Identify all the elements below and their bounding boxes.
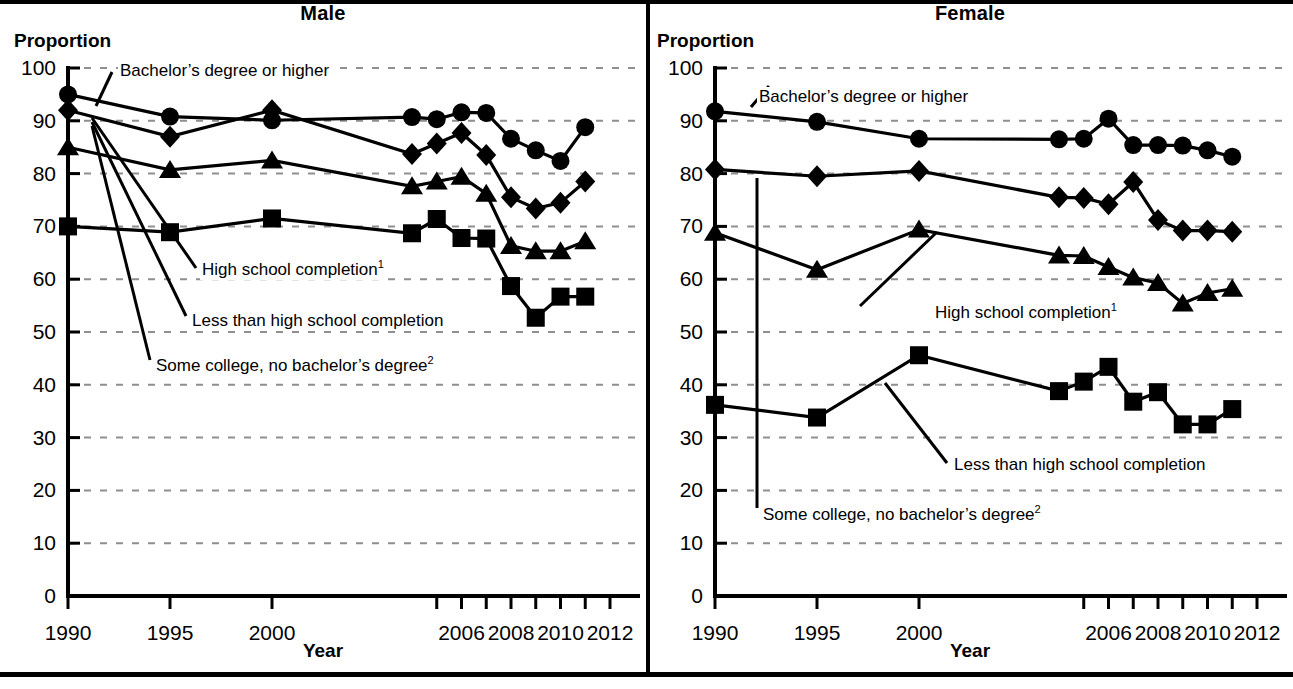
data-point-triangle xyxy=(574,231,596,249)
data-point-diamond xyxy=(1222,221,1242,243)
y-tick-label: 40 xyxy=(33,373,56,396)
series-diamond xyxy=(58,99,595,219)
data-point-triangle xyxy=(475,184,497,202)
series-group-female xyxy=(704,102,1243,433)
y-tick-label: 30 xyxy=(33,426,56,449)
leader-high-school-female xyxy=(860,232,937,306)
x-tick-label: 2000 xyxy=(249,621,296,644)
data-point-square xyxy=(428,210,446,228)
data-point-diamond xyxy=(1173,220,1193,242)
series-circle xyxy=(706,102,1241,165)
data-point-diamond xyxy=(402,143,422,165)
x-tick-label: 1995 xyxy=(147,621,194,644)
x-tick-label: 2006 xyxy=(438,621,485,644)
data-point-square xyxy=(1149,383,1167,401)
annotation-some-college-female: Some college, no bachelor’s degree2 xyxy=(761,503,1043,525)
y-tick-label: 0 xyxy=(44,584,56,607)
y-tick-label: 80 xyxy=(680,162,703,185)
data-point-diamond xyxy=(58,99,78,121)
data-point-circle xyxy=(910,130,928,148)
data-point-square xyxy=(477,230,495,248)
data-point-square xyxy=(1223,400,1241,418)
data-point-square xyxy=(1124,393,1142,411)
data-point-triangle xyxy=(261,150,283,168)
x-tick-label: 2000 xyxy=(896,621,943,644)
panel-male: Male Proportion Year 0102030405060708090… xyxy=(0,0,646,672)
data-point-circle xyxy=(1199,141,1217,159)
data-point-circle xyxy=(428,110,446,128)
data-point-square xyxy=(1050,382,1068,400)
data-point-triangle xyxy=(908,220,930,238)
x-tick-labels-female: 1990199520002006200820102012 xyxy=(692,621,1281,644)
data-point-triangle xyxy=(57,137,79,155)
series-line xyxy=(715,230,1232,304)
annotation-some-college-male-text: Some college, no bachelor’s degree xyxy=(156,356,428,375)
y-tick-label: 70 xyxy=(33,214,56,237)
annotation-bachelors-male: Bachelor’s degree or higher xyxy=(118,61,331,81)
data-point-circle xyxy=(1100,110,1118,128)
y-tick-label: 100 xyxy=(668,56,703,79)
data-point-diamond xyxy=(501,186,521,208)
data-point-circle xyxy=(403,108,421,126)
y-tick-label: 20 xyxy=(680,478,703,501)
data-point-square xyxy=(706,396,724,414)
series-diamond xyxy=(705,158,1242,242)
data-point-diamond xyxy=(705,158,725,180)
x-tick-label: 2010 xyxy=(537,621,584,644)
x-tick-label: 2010 xyxy=(1184,621,1231,644)
annotation-less-than-hs-male: Less than high school completion xyxy=(190,311,445,331)
data-point-square xyxy=(552,288,570,306)
data-point-circle xyxy=(502,130,520,148)
data-point-circle xyxy=(477,104,495,122)
y-tick-label: 10 xyxy=(33,531,56,554)
x-tick-label: 2006 xyxy=(1085,621,1132,644)
leader-less-than-hs-female xyxy=(885,383,947,463)
data-point-diamond xyxy=(1198,220,1218,242)
annotation-some-college-female-text: Some college, no bachelor’s degree xyxy=(763,505,1035,524)
data-point-circle xyxy=(527,141,545,159)
data-point-circle xyxy=(1075,130,1093,148)
data-point-square xyxy=(910,346,928,364)
x-tick-label: 2012 xyxy=(587,621,634,644)
panel-female: Female Proportion Year 01020304050607080… xyxy=(647,0,1293,672)
annotation-bachelors-female: Bachelor’s degree or higher xyxy=(757,87,970,107)
data-point-diamond xyxy=(1049,186,1069,208)
data-point-square xyxy=(502,277,520,295)
data-point-triangle xyxy=(500,236,522,254)
data-point-circle xyxy=(1124,136,1142,154)
y-tick-labels-male: 0102030405060708090100 xyxy=(21,56,56,607)
data-point-square xyxy=(59,217,77,235)
data-point-diamond xyxy=(909,160,929,182)
data-point-square xyxy=(1174,415,1192,433)
data-point-circle xyxy=(1174,137,1192,155)
y-tick-label: 30 xyxy=(680,426,703,449)
y-tick-label: 70 xyxy=(680,214,703,237)
data-point-diamond xyxy=(160,126,180,148)
axes-male xyxy=(66,66,640,609)
data-point-triangle xyxy=(1221,279,1243,297)
data-point-triangle xyxy=(1122,268,1144,286)
y-tick-label: 0 xyxy=(691,584,703,607)
series-square xyxy=(706,346,1241,433)
annotation-some-college-male: Some college, no bachelor’s degree2 xyxy=(154,354,436,376)
data-point-circle xyxy=(808,113,826,131)
data-point-square xyxy=(1199,415,1217,433)
annotations-male xyxy=(92,72,196,360)
data-point-square xyxy=(1100,358,1118,376)
bottom-rule xyxy=(0,672,1293,677)
y-tick-label: 90 xyxy=(680,109,703,132)
data-point-square xyxy=(403,224,421,242)
y-tick-label: 50 xyxy=(680,320,703,343)
data-point-circle xyxy=(706,102,724,120)
annotation-high-school-male: High school completion1 xyxy=(200,258,386,280)
data-point-circle xyxy=(453,103,471,121)
footnote-marker-2-male: 2 xyxy=(428,354,434,366)
annotation-high-school-female: High school completion1 xyxy=(933,301,1119,323)
y-tick-label: 80 xyxy=(33,162,56,185)
footnote-marker-1-female: 1 xyxy=(1111,301,1117,313)
y-tick-label: 20 xyxy=(33,478,56,501)
leader-less-than-hs-male xyxy=(92,122,186,316)
data-point-diamond xyxy=(1148,209,1168,231)
data-point-triangle xyxy=(1098,257,1120,275)
data-point-diamond xyxy=(807,165,827,187)
